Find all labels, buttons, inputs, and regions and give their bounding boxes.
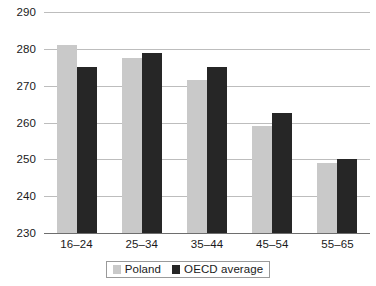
bar-poland [122, 58, 142, 233]
legend-item: OECD average [172, 263, 263, 275]
y-tick-label: 260 [0, 117, 36, 129]
bar-poland [252, 126, 272, 233]
y-tick-label: 240 [0, 190, 36, 202]
bar-group [174, 12, 239, 233]
bar-oecd [272, 113, 292, 233]
legend-box: PolandOECD average [106, 261, 271, 278]
bar-chart: 290280270260250240230 16–2425–3435–4445–… [0, 0, 376, 286]
oecd-swatch [172, 265, 180, 274]
bar-oecd [207, 67, 227, 233]
bar-poland [187, 80, 207, 233]
y-tick-label: 280 [0, 43, 36, 55]
bar-group [305, 12, 370, 233]
legend-label: Poland [125, 263, 161, 275]
bar-group [109, 12, 174, 233]
bar-poland [317, 163, 337, 233]
bar-poland [57, 45, 77, 233]
x-tick-label: 16–24 [44, 234, 109, 254]
y-tick-label: 230 [0, 227, 36, 239]
y-tick-label: 290 [0, 6, 36, 18]
x-tick-label: 35–44 [174, 234, 239, 254]
legend-item: Poland [113, 263, 161, 275]
y-tick-label: 270 [0, 80, 36, 92]
bar-group [240, 12, 305, 233]
x-tick-label: 55–65 [305, 234, 370, 254]
bar-oecd [142, 53, 162, 233]
y-tick-label: 250 [0, 153, 36, 165]
x-tick-label: 45–54 [240, 234, 305, 254]
legend: PolandOECD average [0, 261, 376, 278]
bar-oecd [337, 159, 357, 233]
x-axis-labels: 16–2425–3435–4445–5455–65 [44, 234, 370, 254]
bar-group [44, 12, 109, 233]
legend-label: OECD average [184, 263, 263, 275]
poland-swatch [113, 265, 121, 274]
x-tick-label: 25–34 [109, 234, 174, 254]
plot-area [44, 12, 370, 233]
bar-groups [44, 12, 370, 233]
bar-oecd [77, 67, 97, 233]
